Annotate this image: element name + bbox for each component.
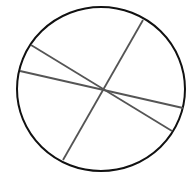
diameter-line-2 [31, 45, 172, 131]
circle-diagram [0, 0, 195, 180]
diameter-line-3 [20, 71, 183, 108]
